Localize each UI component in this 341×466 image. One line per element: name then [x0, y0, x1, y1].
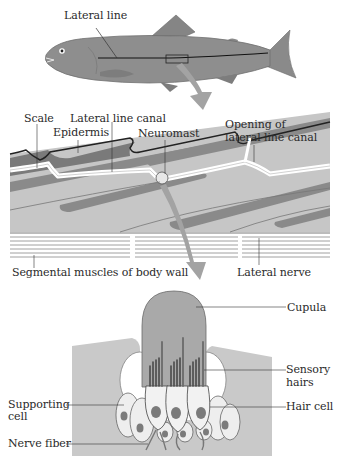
- label-hair-cell: Hair cell: [286, 401, 333, 413]
- label-lateral-nerve: Lateral nerve: [237, 267, 311, 279]
- label-nerve-fiber: Nerve fiber: [8, 438, 71, 450]
- label-lateral-line-canal: Lateral line canal: [70, 113, 166, 125]
- label-sensory-line1: Sensory: [286, 364, 330, 376]
- label-segmental-muscles: Segmental muscles of body wall: [12, 267, 188, 279]
- label-opening-line1: Opening of: [225, 119, 286, 131]
- label-neuromast: Neuromast: [138, 128, 199, 140]
- label-epidermis: Epidermis: [53, 127, 109, 139]
- label-lateral-line: Lateral line: [64, 10, 127, 22]
- label-scale: Scale: [24, 113, 54, 125]
- fish-illustration: [45, 15, 296, 92]
- neuromast-detail: [66, 291, 286, 456]
- label-sensory-line2: hairs: [286, 377, 314, 389]
- lateral-line-diagram: [0, 0, 341, 466]
- label-opening-line2: lateral line canal: [225, 132, 317, 144]
- label-cupula: Cupula: [287, 302, 326, 314]
- label-supporting-line2: cell: [8, 411, 27, 423]
